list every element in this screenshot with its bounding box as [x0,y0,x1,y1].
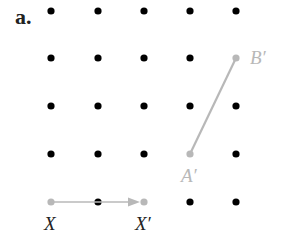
grid-dot [140,54,147,61]
label-a-prime: A′ [179,165,198,186]
grid-dot [232,7,239,14]
label-b-prime: B′ [250,47,267,68]
grid-dot [94,150,101,157]
point-x [47,198,54,205]
point-a-prime [186,150,193,157]
grid-dots [47,7,239,205]
dot-grid-diagram: a. X X′ A′ B′ [0,0,283,250]
point-x-prime [140,198,147,205]
grid-dot [47,7,54,14]
point-b-prime [232,54,239,61]
grid-dot [47,102,54,109]
grid-dot [232,198,239,205]
vector-arrowhead-icon [128,198,140,207]
label-x: X [43,213,57,234]
grid-dot [232,102,239,109]
grid-dot [186,7,193,14]
grid-dot [232,150,239,157]
grid-dot [94,102,101,109]
grid-dot [94,54,101,61]
grid-dot [186,198,193,205]
grid-dot [140,102,147,109]
part-label: a. [15,4,32,29]
segment-a-prime-b-prime [190,58,236,154]
grid-dot [47,54,54,61]
grid-dot [186,54,193,61]
grid-dot [94,7,101,14]
label-x-prime: X′ [134,213,152,234]
grid-dot [186,102,193,109]
grid-dot [140,150,147,157]
grid-dot [47,150,54,157]
grid-dot [140,7,147,14]
